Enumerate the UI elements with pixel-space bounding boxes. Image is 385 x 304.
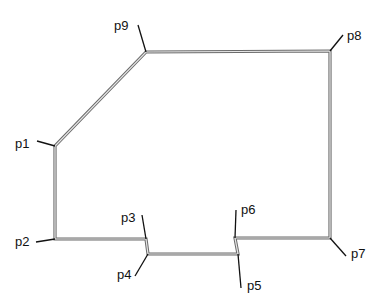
point-label-p7: p7: [351, 247, 365, 260]
point-label-p9: p9: [114, 19, 128, 32]
point-label-p8: p8: [347, 29, 361, 42]
leader-line-p3: [142, 215, 146, 239]
leader-line-p6: [235, 210, 236, 238]
leader-line-p1: [37, 141, 55, 146]
leader-line-p4: [135, 254, 148, 276]
point-label-p2: p2: [15, 235, 29, 248]
point-label-p5: p5: [247, 279, 261, 292]
leader-line-p2: [36, 239, 55, 242]
point-label-p6: p6: [241, 203, 255, 216]
point-label-p3: p3: [121, 211, 135, 224]
leader-line-p7: [330, 238, 346, 256]
leader-line-p8: [330, 35, 343, 51]
polygon-diagram: [0, 0, 385, 304]
polygon-outline-outer: [55, 51, 330, 254]
polygon-outline: [55, 51, 330, 254]
point-label-p1: p1: [15, 137, 29, 150]
leader-lines: [36, 25, 346, 288]
leader-line-p9: [138, 25, 146, 52]
point-label-p4: p4: [117, 268, 131, 281]
leader-line-p5: [238, 254, 241, 288]
polygon-outline-inner: [55, 51, 330, 254]
